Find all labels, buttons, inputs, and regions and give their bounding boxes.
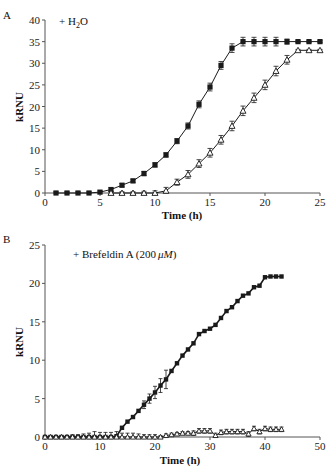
square-marker [268,274,272,278]
square-marker [219,316,223,320]
square-marker [97,190,102,195]
y-tick-label: 30 [29,57,41,69]
y-tick-label: 25 [29,239,41,251]
square-marker [174,139,179,144]
panel-b-plot-area [42,274,284,439]
square-marker [273,39,278,44]
x-tick-label: 40 [260,440,272,452]
square-marker [180,353,184,357]
square-marker [186,347,190,351]
x-tick-label: 0 [42,196,48,208]
panel-a-xlabel: Time (h) [162,209,203,222]
x-tick-label: 20 [150,440,162,452]
y-tick-label: 25 [29,79,41,91]
y-tick-label: 20 [29,101,41,113]
triangle-marker [257,429,262,434]
triangle-marker [262,426,267,431]
y-tick-label: 0 [35,431,41,443]
panel-b: B 010203040500510152025 + Brefeldin A (2… [3,233,326,467]
y-tick-label: 10 [29,144,41,156]
x-tick-label: 20 [260,196,272,208]
square-marker [131,415,135,419]
square-marker [191,341,195,345]
square-marker [246,291,250,295]
square-marker [240,39,245,44]
square-marker [241,293,245,297]
square-marker [147,396,151,400]
y-tick-label: 5 [35,165,41,177]
square-marker [208,327,212,331]
panel-a-ylabel: kRNU [13,92,25,122]
triangle-marker [251,426,256,431]
square-marker [163,152,168,157]
square-marker [252,285,256,289]
square-marker [152,162,157,167]
x-tick-label: 10 [150,196,162,208]
series-filled-squares [43,274,284,439]
panel-a: A 05101520250510152025303540 + H2O Time … [3,9,326,222]
square-marker [119,183,124,188]
x-tick-label: 50 [315,440,327,452]
y-tick-label: 5 [35,393,41,405]
square-marker [274,274,278,278]
panel-a-annotation: + H2O [59,15,88,30]
square-marker [130,178,135,183]
square-marker [295,39,300,44]
panel-b-xlabel: Time (h) [160,454,201,467]
square-marker [185,123,190,128]
square-marker [125,419,129,423]
square-marker [120,426,124,430]
square-marker [64,190,69,195]
panel-b-axes: 010203040500510152025 [29,239,326,452]
y-tick-label: 20 [29,277,41,289]
y-tick-label: 15 [29,122,41,134]
square-marker [306,39,311,44]
square-marker [235,299,239,303]
x-tick-label: 10 [95,440,107,452]
square-marker [158,383,162,387]
triangle-marker [174,179,180,184]
square-marker [86,190,91,195]
y-tick-label: 40 [29,14,41,26]
panel-a-label: A [3,9,11,21]
square-marker [230,305,234,309]
square-marker [164,377,168,381]
x-tick-label: 25 [315,196,327,208]
square-marker [153,390,157,394]
square-marker [284,39,289,44]
y-tick-label: 10 [29,354,41,366]
square-marker [213,323,217,327]
x-tick-label: 30 [205,440,217,452]
square-marker [169,369,173,373]
square-marker [317,39,322,44]
square-marker [229,46,234,51]
x-tick-label: 5 [97,196,103,208]
series-line [45,277,282,438]
x-tick-label: 0 [42,440,48,452]
series-open-triangles [108,47,323,195]
y-tick-label: 0 [35,187,41,199]
panel-b-annotation: + Brefeldin A (200 μM) [73,248,177,261]
square-marker [251,39,256,44]
square-marker [197,332,201,336]
square-marker [202,329,206,333]
square-marker [224,309,228,313]
square-marker [141,171,146,176]
square-marker [142,403,146,407]
square-marker [257,284,261,288]
square-marker [175,361,179,365]
square-marker [263,275,267,279]
square-marker [262,39,267,44]
y-tick-label: 15 [29,316,41,328]
y-tick-label: 35 [29,36,41,48]
square-marker [207,84,212,89]
square-marker [75,190,80,195]
x-tick-label: 15 [205,196,217,208]
panel-b-label: B [3,233,10,245]
square-marker [279,274,283,278]
panel-b-ylabel: kRNU [13,327,25,357]
figure: A 05101520250510152025303540 + H2O Time … [0,0,333,474]
square-marker [196,102,201,107]
panel-a-plot-area [53,37,323,195]
square-marker [136,409,140,413]
